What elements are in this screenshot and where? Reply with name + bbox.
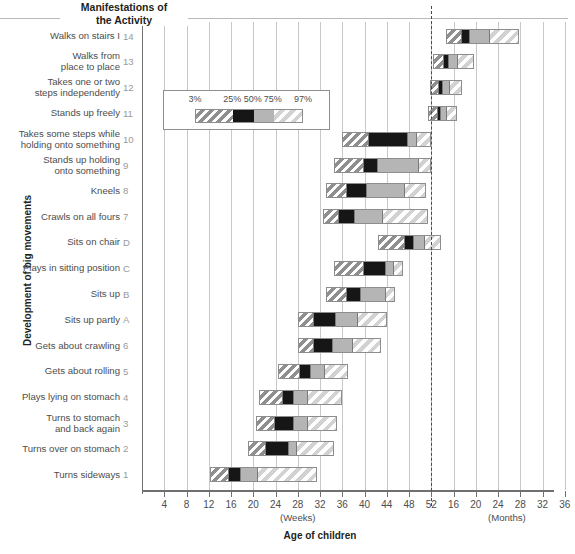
bar-segment bbox=[313, 313, 335, 326]
bar-segment bbox=[448, 55, 457, 68]
legend-percentile-labels: 3%25%50%75%97% bbox=[164, 94, 329, 107]
segment-divider bbox=[293, 391, 294, 404]
bar-segment bbox=[404, 236, 412, 249]
x-tick-mark bbox=[276, 491, 277, 497]
bar-segment bbox=[265, 442, 287, 455]
legend-percentile-label: 75% bbox=[260, 94, 286, 104]
segment-divider bbox=[352, 339, 353, 352]
gridline bbox=[476, 22, 477, 490]
row-label-line: Crawls on all fours bbox=[41, 211, 120, 222]
bar-segment bbox=[332, 339, 351, 352]
legend-percentile-label: 3% bbox=[182, 94, 208, 104]
bar-segment bbox=[288, 442, 296, 455]
row-index: 4 bbox=[123, 392, 141, 403]
bar-segment bbox=[366, 184, 405, 197]
gridline bbox=[387, 22, 388, 490]
x-tick-mark bbox=[320, 491, 321, 497]
bar-segment bbox=[293, 417, 307, 430]
row-label: Gets about crawling bbox=[0, 340, 120, 351]
segment-divider bbox=[357, 313, 358, 326]
segment-divider bbox=[346, 288, 347, 301]
segment-divider bbox=[313, 339, 314, 352]
legend-segment bbox=[196, 110, 233, 122]
segment-divider bbox=[296, 442, 297, 455]
row-label: Walks fromplace to place bbox=[0, 50, 120, 72]
segment-divider bbox=[363, 262, 364, 275]
percentile-bar bbox=[323, 209, 429, 224]
segment-divider bbox=[338, 210, 339, 223]
bar-segment bbox=[429, 107, 437, 120]
bar-segment bbox=[338, 210, 355, 223]
segment-divider bbox=[446, 107, 447, 120]
row-label: Plays lying on stomach bbox=[0, 391, 120, 402]
bar-segment bbox=[299, 313, 313, 326]
segment-divider bbox=[457, 55, 458, 68]
bar-segment bbox=[457, 55, 474, 68]
gridline bbox=[409, 22, 410, 490]
bar-segment bbox=[354, 210, 382, 223]
bar-segment bbox=[296, 442, 334, 455]
segment-divider bbox=[438, 81, 439, 94]
row-index: 13 bbox=[123, 56, 141, 67]
x-tick-mark bbox=[431, 491, 432, 497]
bar-segment bbox=[377, 159, 419, 172]
percentile-bar bbox=[342, 132, 431, 147]
x-axis-title: Age of children bbox=[220, 530, 420, 541]
bar-segment bbox=[446, 107, 457, 120]
x-axis-line bbox=[142, 490, 554, 492]
percentile-bar bbox=[298, 312, 387, 327]
bar-segment bbox=[357, 313, 387, 326]
row-label-line: place to place bbox=[61, 61, 120, 72]
segment-divider bbox=[382, 210, 383, 223]
bar-segment bbox=[313, 339, 332, 352]
bar-segment bbox=[299, 365, 310, 378]
bar-segment bbox=[228, 468, 241, 481]
bar-segment bbox=[368, 133, 407, 146]
x-tick-mark bbox=[454, 491, 455, 497]
row-label: Crawls on all fours bbox=[0, 211, 120, 222]
row-label: Takes some steps whileholding onto somet… bbox=[0, 128, 120, 150]
bar-segment bbox=[393, 262, 403, 275]
percentile-bar bbox=[298, 338, 381, 353]
bar-segment bbox=[335, 262, 363, 275]
segment-divider bbox=[299, 365, 300, 378]
percentile-bar bbox=[433, 54, 474, 69]
row-label-line: Stands up freely bbox=[51, 107, 120, 118]
percentile-bar bbox=[446, 29, 519, 44]
x-tick-mark bbox=[231, 491, 232, 497]
row-label-line: holding onto something bbox=[21, 139, 120, 150]
segment-divider bbox=[449, 81, 450, 94]
row-label-line: Plays in sitting position bbox=[23, 262, 120, 273]
header-title-line1: Manifestations of bbox=[81, 1, 167, 13]
bar-segment bbox=[279, 365, 298, 378]
bar-segment bbox=[424, 236, 441, 249]
bar-segment bbox=[282, 391, 293, 404]
bar-segment bbox=[324, 365, 348, 378]
bar-segment bbox=[363, 262, 385, 275]
bar-segment bbox=[343, 133, 368, 146]
row-label-line: Gets about rolling bbox=[45, 365, 120, 376]
bar-segment bbox=[461, 30, 469, 43]
row-label-line: Takes some steps while bbox=[19, 128, 120, 139]
bar-segment bbox=[352, 339, 382, 352]
bar-segment bbox=[293, 391, 307, 404]
bar-segment bbox=[469, 30, 489, 43]
row-label: Stands up holdingonto something bbox=[0, 154, 120, 176]
row-label-line: Turns over on stomach bbox=[22, 443, 120, 454]
bar-segment bbox=[385, 262, 393, 275]
segment-divider bbox=[360, 288, 361, 301]
row-label: Sits up bbox=[0, 288, 120, 299]
row-label: Stands up freely bbox=[0, 107, 120, 118]
row-index: 6 bbox=[123, 340, 141, 351]
row-label-line: Gets about crawling bbox=[35, 340, 120, 351]
row-label: Walks on stairs I bbox=[0, 30, 120, 41]
row-index: 9 bbox=[123, 160, 141, 171]
row-index: 1 bbox=[123, 469, 141, 480]
row-label: Sits up partly bbox=[0, 314, 120, 325]
x-unit-months-label: (Months) bbox=[467, 512, 547, 523]
segment-divider bbox=[461, 30, 462, 43]
segment-divider bbox=[443, 55, 444, 68]
segment-divider bbox=[282, 391, 283, 404]
bar-segment bbox=[307, 417, 337, 430]
row-label-line: onto something bbox=[54, 165, 120, 176]
